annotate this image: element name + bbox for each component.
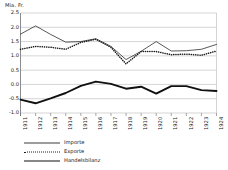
legend-swatch-exporte <box>24 148 60 155</box>
legend-item-handelsbilanz: Handelsbilanz <box>24 157 100 164</box>
chart-legend: Importe Exporte Handelsbilanz <box>24 139 100 164</box>
legend-label-importe: Importe <box>64 140 84 145</box>
legend-label-exporte: Exporte <box>64 149 84 154</box>
series-line-handelsbilanz <box>21 82 217 104</box>
trade-balance-chart: Mia. Fr. 2.52.01.51.00.50.0-0.5-1.0 1911… <box>0 0 228 170</box>
legend-item-exporte: Exporte <box>24 148 100 155</box>
legend-item-importe: Importe <box>24 139 100 146</box>
legend-label-handelsbilanz: Handelsbilanz <box>64 158 100 163</box>
series-line-exporte <box>21 39 217 64</box>
legend-swatch-importe <box>24 139 60 146</box>
legend-swatch-handelsbilanz <box>24 157 60 164</box>
